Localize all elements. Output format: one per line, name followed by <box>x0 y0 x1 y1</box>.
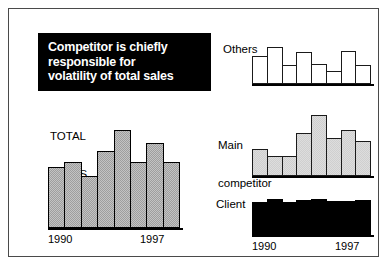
bar-client-1991 <box>267 199 283 235</box>
chart-client-x-axis <box>252 235 374 237</box>
bar-client-1992 <box>282 202 298 235</box>
chart-total-sales-tick-end: 1997 <box>140 233 164 245</box>
bar-main-competitor-1991 <box>267 156 283 176</box>
bar-total-sales-1993 <box>97 151 114 228</box>
bar-main-competitor-1993 <box>296 133 312 176</box>
bar-total-sales-1997 <box>163 162 180 228</box>
bar-total-sales-1994 <box>114 130 131 228</box>
bar-others-1993 <box>296 52 312 84</box>
chart-total-sales: TOTAL SALES 1990 1997 <box>48 105 183 248</box>
bar-others-1990 <box>252 56 268 84</box>
slide-frame: Competitor is chiefly responsible for vo… <box>8 8 379 257</box>
chart-main-competitor-x-axis <box>252 176 374 178</box>
chart-client-plot <box>252 197 370 235</box>
bar-client-1993 <box>296 200 312 235</box>
bar-main-competitor-1990 <box>252 149 268 176</box>
chart-total-sales-tick-start: 1990 <box>48 233 72 245</box>
bar-client-1994 <box>311 199 327 235</box>
bar-total-sales-1990 <box>48 167 65 228</box>
chart-main-competitor-plot <box>252 112 370 176</box>
bar-others-1997 <box>355 65 371 84</box>
chart-others-x-axis <box>252 84 374 86</box>
chart-client-tick-end: 1997 <box>335 240 359 252</box>
bar-others-1992 <box>282 65 298 84</box>
bar-others-1996 <box>341 51 357 84</box>
chart-client-tick-start: 1990 <box>252 240 276 252</box>
bar-others-1994 <box>311 64 327 84</box>
chart-main-competitor: Main competitor <box>252 112 374 182</box>
chart-others: Others <box>252 45 374 91</box>
title-line-2: responsible for <box>48 55 211 70</box>
bar-total-sales-1996 <box>146 143 163 228</box>
chart-total-sales-x-axis <box>48 228 183 230</box>
bar-main-competitor-1992 <box>282 156 298 176</box>
bar-total-sales-1992 <box>81 176 98 228</box>
bar-main-competitor-1995 <box>326 138 342 176</box>
bar-client-1990 <box>252 202 268 235</box>
title-line-1: Competitor is chiefly <box>48 40 211 55</box>
bar-client-1995 <box>326 201 342 235</box>
chart-total-sales-plot <box>48 125 179 228</box>
bar-main-competitor-1997 <box>355 141 371 176</box>
bar-others-1991 <box>267 47 283 84</box>
bar-main-competitor-1996 <box>341 130 357 176</box>
bar-others-1995 <box>326 71 342 84</box>
bar-total-sales-1991 <box>64 162 81 228</box>
chart-others-plot <box>252 45 370 84</box>
title-line-3: volatility of total sales <box>48 69 211 84</box>
bar-main-competitor-1994 <box>311 115 327 176</box>
bar-client-1997 <box>355 200 371 235</box>
chart-client: Client 1990 1997 <box>252 197 374 252</box>
bar-total-sales-1995 <box>130 162 147 228</box>
bar-client-1996 <box>341 201 357 235</box>
main-competitor-caption-line2: competitor <box>218 177 272 190</box>
title-callout-box: Competitor is chiefly responsible for vo… <box>38 33 211 91</box>
chart-client-caption: Client <box>216 198 245 210</box>
